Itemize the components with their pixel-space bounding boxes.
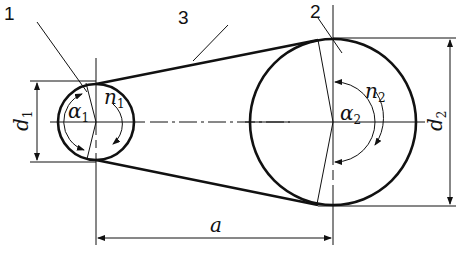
belt-drive-diagram: 1 2 3 α1 n1 d1 α2 n2 d2 a: [0, 0, 459, 255]
d2-label: d2: [423, 111, 449, 131]
alpha2-label: α2: [340, 101, 361, 127]
callout-2: 2: [310, 1, 321, 22]
alpha1-label: α1: [68, 99, 89, 125]
callout-3: 3: [178, 7, 189, 28]
large-pulley: [250, 5, 416, 245]
n2-label: n2: [365, 79, 386, 105]
callout-1: 1: [4, 3, 15, 24]
svg-text:d2: d2: [423, 111, 449, 131]
small-pulley: [58, 58, 134, 245]
a-label: a: [210, 213, 222, 237]
d1-label: d1: [9, 111, 35, 131]
n1-label: n1: [104, 85, 125, 111]
svg-text:d1: d1: [9, 111, 35, 131]
